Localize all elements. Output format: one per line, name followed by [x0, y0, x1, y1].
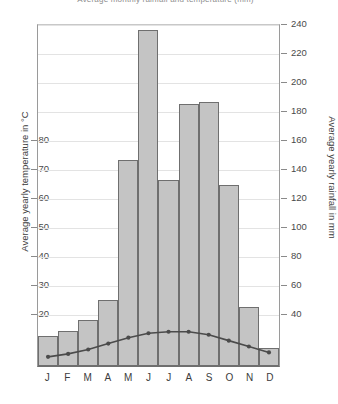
right-tick-mark: [281, 227, 287, 228]
rainfall-bar: [78, 320, 98, 366]
right-tick-label: 120: [291, 192, 321, 203]
right-tick-label: 180: [291, 105, 321, 116]
rainfall-bar: [239, 307, 259, 366]
x-axis-label: O: [219, 372, 239, 383]
bar-cell: [158, 25, 178, 366]
right-tick-mark: [281, 285, 287, 286]
right-tick-mark: [281, 314, 287, 315]
right-tick-mark: [281, 198, 287, 199]
right-axis-title: Average yearly rainfall in mm: [327, 68, 338, 288]
rainfall-bar: [199, 102, 219, 366]
right-tick-label: 140: [291, 163, 321, 174]
right-tick-mark: [281, 140, 287, 141]
right-tick-label: 160: [291, 134, 321, 145]
right-tick-label: 220: [291, 47, 321, 58]
rainfall-bar: [38, 336, 58, 366]
right-tick-mark: [281, 256, 287, 257]
chart-title: Average monthly rainfall and temperature…: [0, 0, 331, 4]
right-tick-mark: [281, 169, 287, 170]
right-tick-mark: [281, 24, 287, 25]
x-axis-label: M: [78, 372, 98, 383]
right-tick-mark: [281, 53, 287, 54]
x-axis-label: N: [240, 372, 260, 383]
bar-cell: [179, 25, 199, 366]
x-axis-label: D: [260, 372, 280, 383]
x-axis-label: F: [57, 372, 77, 383]
x-axis-label: S: [199, 372, 219, 383]
right-tick-label: 40: [291, 308, 321, 319]
bar-cell: [38, 25, 58, 366]
rainfall-bar: [118, 160, 138, 366]
rainfall-bar: [58, 331, 78, 366]
bar-cell: [259, 25, 279, 366]
x-axis-labels: JFMAMJJASOND: [37, 372, 280, 383]
bar-cell: [58, 25, 78, 366]
x-axis-label: M: [118, 372, 138, 383]
rainfall-bar: [158, 180, 178, 366]
right-tick-mark: [281, 82, 287, 83]
bar-cell: [118, 25, 138, 366]
x-axis-label: J: [138, 372, 158, 383]
right-tick-label: 200: [291, 76, 321, 87]
x-axis-label: J: [37, 372, 57, 383]
bar-cell: [78, 25, 98, 366]
right-tick-label: 60: [291, 279, 321, 290]
x-axis-label: J: [159, 372, 179, 383]
bar-cell: [98, 25, 118, 366]
bar-series: [38, 25, 279, 366]
bar-cell: [138, 25, 158, 366]
rainfall-bar: [138, 30, 158, 366]
right-tick-label: 80: [291, 250, 321, 261]
right-tick-label: 240: [291, 18, 321, 29]
rainfall-bar: [98, 300, 118, 366]
plot-area: [37, 24, 280, 367]
bar-cell: [239, 25, 259, 366]
rainfall-bar: [259, 348, 279, 366]
rainfall-bar: [219, 185, 239, 366]
bar-cell: [199, 25, 219, 366]
right-tick-label: 100: [291, 221, 321, 232]
bar-cell: [219, 25, 239, 366]
right-tick-mark: [281, 111, 287, 112]
x-axis-label: A: [179, 372, 199, 383]
rainfall-bar: [179, 104, 199, 366]
x-axis-label: A: [98, 372, 118, 383]
